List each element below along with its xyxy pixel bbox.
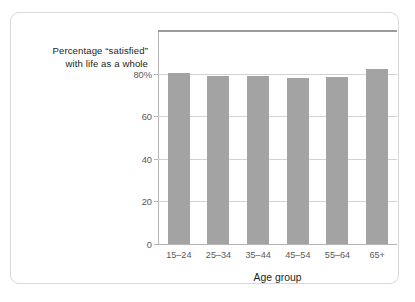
bar-group: 25–34 (199, 32, 239, 244)
x-axis-tick-label: 55–64 (325, 250, 350, 260)
bar (366, 69, 388, 244)
plot-area: 020406080% 15–2425–3435–4445–5455–6465+ (158, 30, 397, 245)
bar (326, 77, 348, 244)
bar-group: 65+ (357, 32, 397, 244)
y-axis-tick-label: 60 (142, 112, 152, 122)
x-axis-tick-label: 25–34 (206, 250, 231, 260)
x-axis-tick-label: 45–54 (285, 250, 310, 260)
y-axis-tick (154, 244, 158, 245)
bar-group: 55–64 (318, 32, 358, 244)
bar (168, 73, 190, 244)
y-axis-tick-label: 40 (142, 155, 152, 165)
y-axis-tick (154, 201, 158, 202)
x-axis-tick-label: 15–24 (166, 250, 191, 260)
bar (207, 76, 229, 244)
y-axis-tick-label: 20 (142, 197, 152, 207)
chart-title: Percentage “satisfied” with life as a wh… (14, 44, 148, 70)
y-axis-tick-label: 0 (147, 240, 152, 250)
chart-title-line-1: Percentage “satisfied” (14, 44, 148, 57)
y-axis-tick-label: 80% (133, 70, 152, 80)
bar-group: 15–24 (159, 32, 199, 244)
chart-title-line-2: with life as a whole (14, 57, 148, 70)
y-axis-tick (154, 159, 158, 160)
x-axis-tick-label: 65+ (369, 250, 384, 260)
x-axis-title: Age group (158, 272, 397, 283)
chart-figure: Percentage “satisfied” with life as a wh… (0, 0, 415, 302)
y-axis-tick (154, 116, 158, 117)
bar-series: 15–2425–3435–4445–5455–6465+ (159, 32, 397, 244)
x-axis-line (158, 244, 397, 245)
y-axis-tick (154, 74, 158, 75)
bar (247, 76, 269, 244)
bar (287, 78, 309, 244)
x-axis-tick-label: 35–44 (246, 250, 271, 260)
bar-group: 45–54 (278, 32, 318, 244)
bar-group: 35–44 (238, 32, 278, 244)
